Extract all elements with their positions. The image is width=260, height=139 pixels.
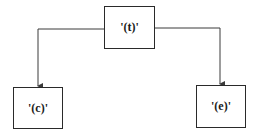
diagram-canvas: '(t)' '(c)' '(e)' bbox=[0, 0, 260, 139]
node-c: '(c)' bbox=[13, 87, 63, 129]
node-t-label: '(t)' bbox=[120, 20, 139, 35]
node-e-label: '(e)' bbox=[211, 99, 231, 114]
edge-t-to-c bbox=[38, 29, 104, 86]
edge-t-to-e bbox=[155, 28, 220, 84]
node-c-label: '(c)' bbox=[28, 101, 48, 116]
node-t: '(t)' bbox=[104, 6, 155, 49]
node-e: '(e)' bbox=[196, 85, 246, 128]
